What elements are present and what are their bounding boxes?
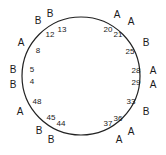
position-number-label: 45 (47, 114, 56, 122)
position-number-label: 8 (36, 47, 40, 55)
class-letter-label-b: B (35, 16, 42, 26)
position-number-label: 36 (114, 115, 123, 123)
position-number-label: 28 (132, 67, 141, 75)
class-letter-label-a: A (128, 17, 135, 27)
class-letter-label-b: B (48, 135, 55, 145)
position-number-label: 5 (30, 66, 34, 74)
position-number-label: 25 (126, 48, 135, 56)
class-letter-label-b: B (47, 9, 54, 19)
class-letter-label-a: A (18, 38, 25, 48)
class-letter-label-b: B (143, 38, 150, 48)
position-number-label: 29 (132, 79, 141, 87)
class-letter-label-a: A (116, 135, 123, 145)
position-number-label: 33 (127, 98, 136, 106)
circular-diagram-canvas: 12138544845443736332928252021 BBABBABBAA… (0, 0, 166, 155)
position-number-label: 4 (30, 78, 34, 86)
class-letter-label-a: A (114, 10, 121, 20)
class-letter-label-b: B (36, 126, 43, 136)
position-number-label: 37 (104, 120, 113, 128)
class-letter-label-a: A (150, 66, 157, 76)
circle-outline (0, 0, 166, 155)
class-letter-label-a: A (150, 80, 157, 90)
class-letter-label-a: A (128, 127, 135, 137)
position-number-label: 48 (33, 98, 42, 106)
class-letter-label-b: B (10, 80, 17, 90)
class-letter-label-b: B (143, 107, 150, 117)
position-number-label: 13 (58, 26, 67, 34)
position-number-label: 12 (46, 31, 55, 39)
position-number-label: 20 (104, 26, 113, 34)
class-letter-label-a: A (17, 107, 24, 117)
position-number-label: 21 (114, 31, 123, 39)
class-letter-label-b: B (10, 65, 17, 75)
position-number-label: 44 (57, 120, 66, 128)
